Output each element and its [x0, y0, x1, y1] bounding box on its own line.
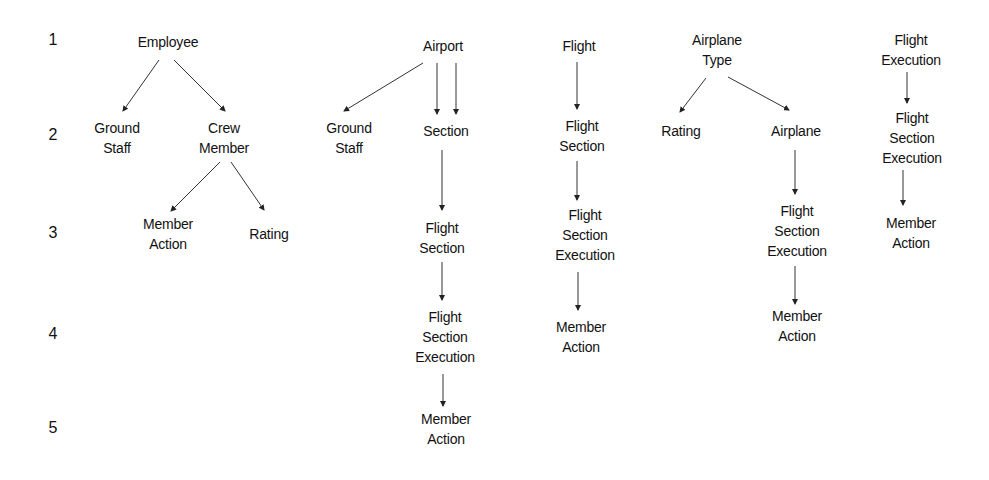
node-flight-section-execution: Flight Section Execution [555, 205, 615, 265]
node-airplane: Airplane [771, 121, 821, 141]
node-ground-staff: Ground Staff [94, 118, 140, 158]
hierarchy-diagram: 1 2 3 4 5 [0, 0, 989, 480]
node-employee: Employee [138, 32, 199, 52]
edge-employee-crewmember [174, 60, 225, 111]
edge-airplanetype-rating [680, 78, 706, 112]
node-flight-execution: Flight Execution [881, 30, 941, 70]
node-member-action: Member Action [886, 213, 936, 253]
node-member-action: Member Action [421, 409, 471, 449]
node-flight-section-execution: Flight Section Execution [767, 201, 827, 261]
node-flight-section-execution: Flight Section Execution [415, 307, 475, 367]
node-crew-member: Crew Member [199, 118, 249, 158]
node-member-action: Member Action [556, 317, 606, 357]
edge-airplanetype-airplane [728, 77, 789, 110]
edge-airport-groundstaff [344, 63, 423, 111]
node-rating: Rating [249, 224, 288, 244]
node-member-action: Member Action [772, 306, 822, 346]
node-airport: Airport [423, 36, 463, 56]
edge-crewmember-rating [231, 162, 264, 210]
node-flight-section: Flight Section [559, 116, 604, 156]
node-flight: Flight [562, 36, 595, 56]
node-airplane-type: Airplane Type [692, 30, 742, 70]
edge-employee-groundstaff [123, 60, 159, 111]
node-ground-staff: Ground Staff [326, 118, 372, 158]
node-rating: Rating [661, 121, 700, 141]
node-flight-section-execution: Flight Section Execution [882, 108, 942, 168]
node-member-action: Member Action [143, 214, 193, 254]
node-flight-section: Flight Section [419, 218, 464, 258]
edge-crewmember-memberaction [171, 162, 220, 211]
node-section: Section [423, 121, 468, 141]
